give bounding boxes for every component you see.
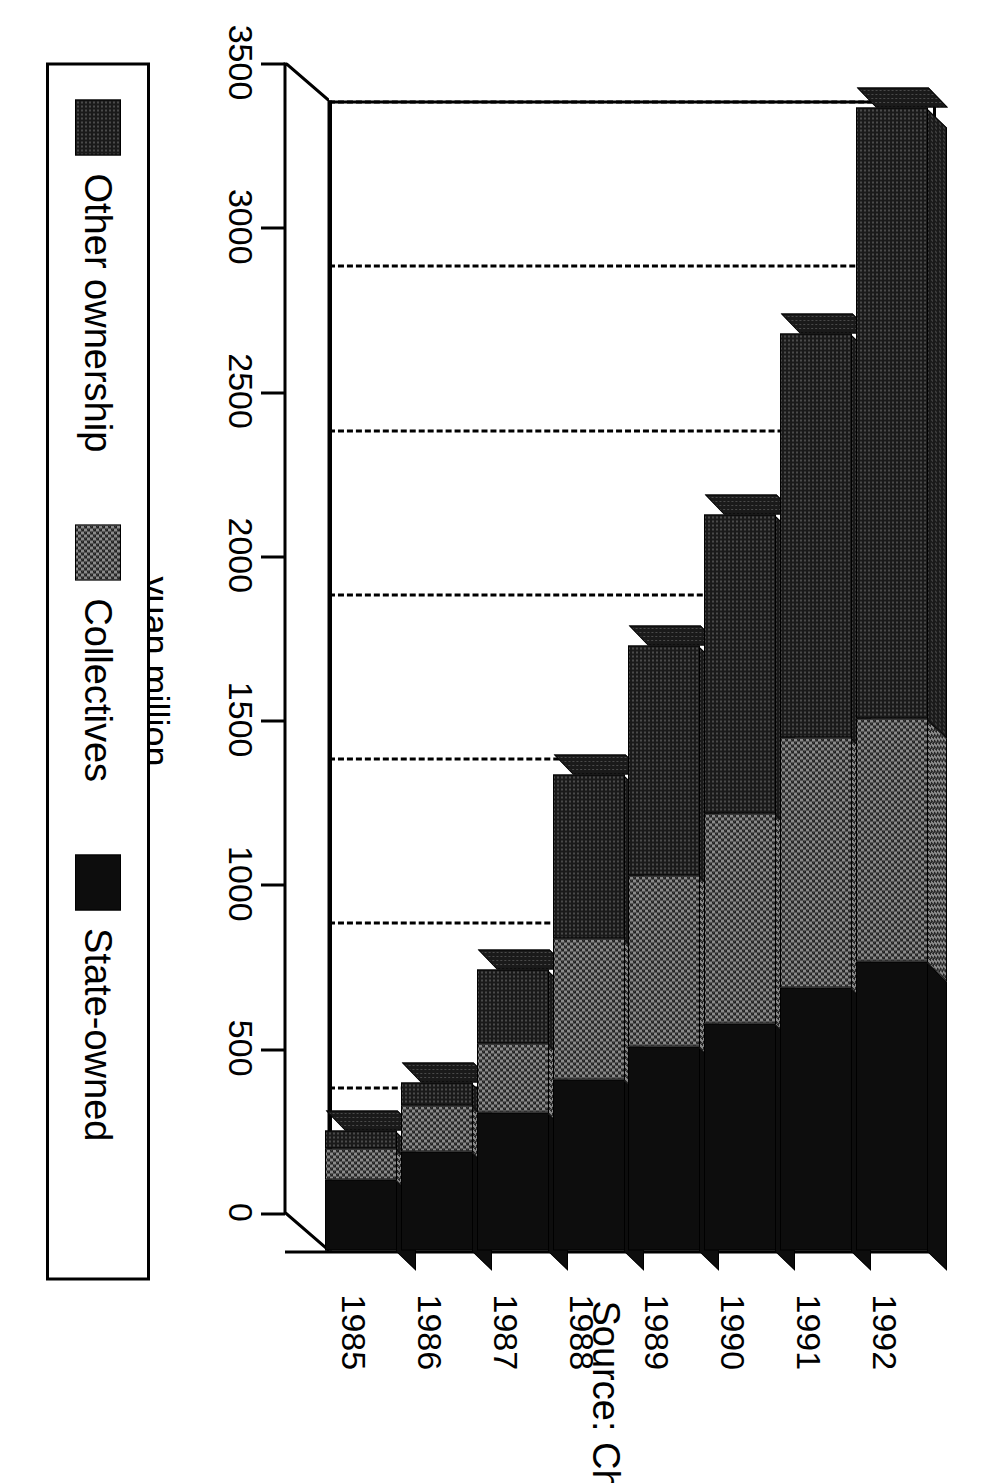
y-tick-label: 3000 bbox=[221, 188, 260, 264]
y-tick-label: 500 bbox=[221, 1019, 260, 1076]
legend-item-other-ownership[interactable]: Other ownership bbox=[75, 99, 121, 452]
y-tick-label: 0 bbox=[221, 1203, 260, 1222]
chart-figure: 0500100015002000250030003500 19851986198… bbox=[0, 0, 988, 1483]
bar-1991 bbox=[780, 100, 852, 1250]
plot-floor bbox=[285, 62, 329, 1250]
y-tick-mark bbox=[261, 62, 285, 65]
y-tick-label: 3500 bbox=[221, 24, 260, 100]
y-tick-mark bbox=[261, 391, 285, 394]
y-tick-mark bbox=[261, 226, 285, 229]
bar-segment-top-cap bbox=[927, 962, 947, 1270]
bar-1988 bbox=[553, 100, 625, 1250]
y-tick-mark bbox=[261, 1048, 285, 1051]
y-tick-mark bbox=[261, 555, 285, 558]
source-note: Source: China Business Review bbox=[276, 1300, 936, 1483]
bar-1987 bbox=[477, 100, 549, 1250]
plot-area: 0500100015002000250030003500 19851986198… bbox=[276, 62, 936, 1280]
legend-label-state-owned: State-owned bbox=[77, 928, 120, 1141]
legend-item-collectives[interactable]: Collectives bbox=[75, 524, 121, 782]
chart-legend: Other ownership Collectives State-owned bbox=[46, 62, 150, 1280]
bar-segment-top-cap bbox=[927, 108, 947, 738]
legend-label-other-ownership: Other ownership bbox=[77, 173, 120, 452]
bar-1985 bbox=[325, 100, 397, 1250]
y-tick-label: 2500 bbox=[221, 353, 260, 429]
legend-item-state-owned[interactable]: State-owned bbox=[75, 854, 121, 1141]
bar-1992 bbox=[856, 100, 928, 1250]
legend-swatch-state-owned bbox=[75, 854, 121, 910]
y-tick-label: 1000 bbox=[221, 846, 260, 922]
y-tick-mark bbox=[261, 883, 285, 886]
y-tick-label: 1500 bbox=[221, 681, 260, 757]
y-tick-label: 2000 bbox=[221, 517, 260, 593]
legend-swatch-other-ownership bbox=[75, 99, 121, 155]
bar-1989 bbox=[628, 100, 700, 1250]
bar-group bbox=[329, 100, 936, 1250]
legend-swatch-collectives bbox=[75, 524, 121, 580]
y-tick-mark bbox=[261, 1212, 285, 1215]
bar-1990 bbox=[704, 100, 776, 1250]
bar-segment-top-cap bbox=[927, 719, 947, 981]
y-tick-mark bbox=[261, 719, 285, 722]
legend-label-collectives: Collectives bbox=[77, 598, 120, 782]
bar-1986 bbox=[401, 100, 473, 1250]
